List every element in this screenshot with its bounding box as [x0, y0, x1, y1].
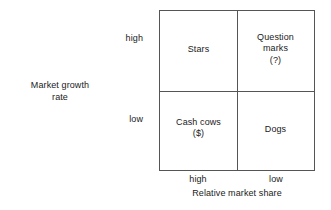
quadrant-cash-cows: Cash cows ($)	[160, 91, 237, 171]
x-axis-tick-low: low	[237, 174, 315, 185]
y-axis-title: Market growth rate	[6, 80, 114, 103]
growth-share-matrix-diagram: Market growth rate high low Stars Questi…	[0, 0, 331, 210]
quadrant-stars-label: Stars	[188, 44, 210, 56]
quadrant-question-marks-label: Question marks (?)	[257, 32, 294, 67]
quadrant-dogs: Dogs	[237, 91, 314, 171]
quadrant-dogs-label: Dogs	[265, 124, 286, 136]
y-axis-tick-low: low	[107, 114, 143, 125]
matrix-box: Stars Question marks (?) Cash cows ($) D…	[159, 10, 315, 171]
quadrant-stars: Stars	[160, 11, 237, 91]
quadrant-cash-cows-label: Cash cows ($)	[176, 117, 221, 140]
quadrant-question-marks: Question marks (?)	[237, 11, 314, 91]
horizontal-divider-line	[160, 91, 314, 92]
x-axis-title: Relative market share	[159, 188, 315, 199]
x-axis-tick-high: high	[159, 174, 237, 185]
y-axis-tick-high: high	[107, 33, 143, 44]
